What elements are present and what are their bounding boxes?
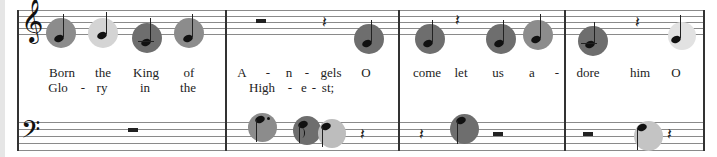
lyric-syllable: of <box>184 66 195 79</box>
staff-line <box>17 122 704 123</box>
quarter-rest-icon: 𝄽 <box>667 126 672 142</box>
lyric-syllable: him <box>630 66 650 79</box>
lyric-syllable: gels <box>321 66 342 79</box>
lyric-syllable: O <box>361 66 370 79</box>
lyric-hyphen: - <box>312 81 316 94</box>
lyric-syllable: a <box>529 66 535 79</box>
lyric-syllable: High <box>249 81 275 94</box>
lyric-syllable: Glo <box>48 81 68 94</box>
quarter-rest-icon: 𝄽 <box>419 126 424 142</box>
note-stem <box>322 127 323 147</box>
staff-line <box>17 10 704 11</box>
treble-clef-icon: 𝄞 <box>21 0 43 42</box>
staff-line <box>17 16 704 17</box>
note-stem <box>256 120 257 142</box>
sheet-music-score: 𝄞 𝄢 𝄽 𝄽 <box>0 0 717 157</box>
lyric-syllable: O <box>671 66 680 79</box>
note-stem <box>457 121 458 144</box>
quarter-rest-icon: 𝄽 <box>455 12 460 28</box>
half-rest <box>128 128 138 132</box>
lyric-syllable: us <box>492 66 504 79</box>
left-edge <box>0 0 5 157</box>
barline <box>398 10 400 151</box>
note-stem <box>371 20 372 42</box>
barline <box>17 10 19 151</box>
staff-line <box>17 150 704 151</box>
note-stem <box>637 128 638 150</box>
note-highlight <box>46 18 76 48</box>
quarter-rest-icon: 𝄽 <box>322 14 327 30</box>
lyric-hyphen: - <box>266 66 270 79</box>
half-rest <box>583 132 593 136</box>
note-stem <box>63 14 64 37</box>
lyric-syllable: the <box>180 81 196 94</box>
lyric-syllable: the <box>95 66 111 79</box>
lyric-syllable: dore <box>576 66 599 79</box>
note-stem <box>106 12 107 34</box>
note-stem <box>432 20 433 42</box>
quarter-rest-icon: 𝄽 <box>635 14 640 30</box>
lyric-syllable: Born <box>49 66 75 79</box>
bass-clef-icon: 𝄢 <box>21 116 40 150</box>
note-highlight <box>174 18 204 48</box>
lyric-hyphen: - <box>288 81 292 94</box>
ledger-line <box>581 43 597 44</box>
half-rest <box>493 132 503 136</box>
staff-line <box>17 22 704 23</box>
note-stem <box>594 22 595 43</box>
augmentation-dot <box>267 117 270 120</box>
ledger-line <box>138 41 154 42</box>
half-rest <box>256 19 266 23</box>
lyric-syllable: ry <box>97 81 108 94</box>
lyric-syllable: let <box>455 66 468 79</box>
note-stem <box>150 18 151 41</box>
barline <box>225 10 227 151</box>
note-stem <box>192 14 193 37</box>
lyric-syllable: e <box>301 81 307 94</box>
barline <box>564 10 566 151</box>
note-stem <box>503 20 504 42</box>
lyric-syllable: King <box>133 66 159 79</box>
lyric-syllable: st; <box>322 81 334 94</box>
lyric-hyphen: - <box>81 81 85 94</box>
lyric-syllable: A <box>237 66 246 79</box>
quarter-rest-icon: 𝄽 <box>360 126 365 142</box>
lyric-hyphen: - <box>305 66 309 79</box>
note-stem <box>680 15 681 38</box>
note-flag <box>299 128 305 138</box>
lyric-syllable: come <box>413 66 441 79</box>
staff-line <box>17 143 704 144</box>
note-stem <box>540 14 541 38</box>
note-highlight <box>293 116 321 145</box>
lyric-syllable: n <box>286 66 293 79</box>
lyric-syllable: in <box>140 81 150 94</box>
barline <box>703 10 705 151</box>
lyric-hyphen: - <box>555 66 559 79</box>
